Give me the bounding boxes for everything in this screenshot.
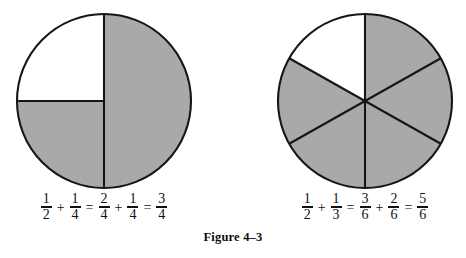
equation-row: 1 2 + 1 4 = 2 4 + 1 4 = <box>0 191 466 227</box>
denominator: 4 <box>70 208 81 222</box>
fraction-two-quarters: 2 4 <box>99 192 110 223</box>
plus-operator: + <box>115 200 123 216</box>
numerator: 1 <box>41 192 52 206</box>
denominator: 6 <box>360 208 371 222</box>
equals-operator: = <box>347 200 355 216</box>
pie-diagram-row <box>0 0 466 196</box>
denominator: 4 <box>99 208 110 222</box>
numerator: 1 <box>302 192 313 206</box>
fraction-one-half: 1 2 <box>41 192 52 223</box>
sector-right-half-shaded <box>104 14 191 188</box>
numerator: 3 <box>360 192 371 206</box>
numerator: 3 <box>156 192 167 206</box>
equation-quarters: 1 2 + 1 4 = 2 4 + 1 4 = <box>14 191 194 225</box>
equals-operator: = <box>404 200 412 216</box>
fraction-five-sixths: 5 6 <box>417 192 428 223</box>
denominator: 2 <box>41 208 52 222</box>
denominator: 3 <box>331 208 342 222</box>
denominator: 2 <box>302 208 313 222</box>
equals-operator: = <box>86 200 94 216</box>
fraction-three-sixths: 3 6 <box>360 192 371 223</box>
pie-chart-quarters-svg <box>13 10 195 192</box>
denominator: 4 <box>127 208 138 222</box>
pie-chart-sixths-svg <box>274 10 456 192</box>
fraction-one-quarter-second: 1 4 <box>127 192 138 223</box>
fraction-one-third: 1 3 <box>331 192 342 223</box>
numerator: 1 <box>70 192 81 206</box>
sector-lower-left-quarter-shaded <box>17 101 104 188</box>
pie-chart-quarters <box>13 10 195 192</box>
fraction-two-sixths: 2 6 <box>388 192 399 223</box>
equation-sixths: 1 2 + 1 3 = 3 6 + 2 6 = <box>274 191 456 225</box>
figure-caption: Figure 4–3 <box>0 230 466 245</box>
numerator: 1 <box>331 192 342 206</box>
sector-upper-left-quarter-unshaded <box>17 14 104 101</box>
fraction-one-half: 1 2 <box>302 192 313 223</box>
plus-operator: + <box>57 200 65 216</box>
plus-operator: + <box>376 200 384 216</box>
fraction-three-quarters: 3 4 <box>156 192 167 223</box>
numerator: 2 <box>99 192 110 206</box>
denominator: 6 <box>388 208 399 222</box>
equals-operator: = <box>143 200 151 216</box>
denominator: 6 <box>417 208 428 222</box>
numerator: 5 <box>417 192 428 206</box>
numerator: 1 <box>127 192 138 206</box>
pie-chart-sixths <box>274 10 456 192</box>
denominator: 4 <box>156 208 167 222</box>
plus-operator: + <box>318 200 326 216</box>
fraction-one-quarter: 1 4 <box>70 192 81 223</box>
numerator: 2 <box>388 192 399 206</box>
figure-4-3: 1 2 + 1 4 = 2 4 + 1 4 = <box>0 0 466 258</box>
